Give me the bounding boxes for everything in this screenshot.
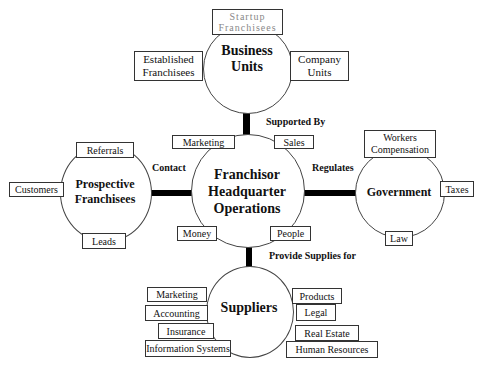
prospective-title-line1: Prospective <box>62 177 148 192</box>
business-units-title: Business Units <box>205 43 289 75</box>
box-supplier-human-resources: Human Resources <box>286 341 378 358</box>
box-leads: Leads <box>82 233 126 249</box>
label-provide-supplies: Provide Supplies for <box>269 250 356 261</box>
hq-title-line2: Headquarter <box>195 183 299 200</box>
box-label: Units <box>308 66 332 79</box>
box-law: Law <box>385 231 413 246</box>
suppliers-title: Suppliers <box>208 300 290 316</box>
box-hq-people: People <box>270 226 311 241</box>
government-title: Government <box>357 186 441 200</box>
box-customers: Customers <box>9 182 64 197</box>
box-supplier-real-estate: Real Estate <box>295 325 359 341</box>
box-workers-compensation: Workers Compensation <box>364 130 436 158</box>
box-referrals: Referrals <box>76 142 134 158</box>
label-supported-by: Supported By <box>266 116 325 127</box>
business-units-title-line1: Business <box>205 43 289 59</box>
box-company-units: Company Units <box>290 51 349 81</box>
box-label: Franchisees <box>143 66 195 79</box>
box-label: Startup <box>230 11 266 22</box>
hq-title-line3: Operations <box>195 200 299 217</box>
box-supplier-products: Products <box>292 288 342 304</box>
box-label: Compensation <box>371 144 429 156</box>
box-label: Workers <box>383 132 417 144</box>
label-contact: Contact <box>152 162 186 173</box>
business-units-title-line2: Units <box>205 59 289 75</box>
prospective-title-line2: Franchisees <box>62 192 148 207</box>
box-supplier-insurance: Insurance <box>158 323 214 339</box>
franchisor-hq-title: Franchisor Headquarter Operations <box>195 166 299 217</box>
label-regulates: Regulates <box>312 162 354 173</box>
box-label: Company <box>298 53 341 66</box>
connector-prospective <box>150 190 192 196</box>
box-hq-marketing: Marketing <box>172 135 235 149</box>
box-supplier-legal: Legal <box>296 304 336 321</box>
box-label: Franchisees <box>218 22 276 33</box>
prospective-franchisees-title: Prospective Franchisees <box>62 177 148 207</box>
box-startup-franchisees: Startup Franchisees <box>212 9 283 35</box>
box-hq-sales: Sales <box>274 135 314 149</box>
hq-title-line1: Franchisor <box>195 166 299 183</box>
box-supplier-accounting: Accounting <box>145 305 208 321</box>
box-hq-money: Money <box>177 226 217 241</box>
box-established-franchisees: Established Franchisees <box>134 51 203 81</box>
box-taxes: Taxes <box>440 181 474 197</box>
box-supplier-marketing: Marketing <box>147 287 207 302</box>
box-label: Established <box>143 53 194 66</box>
connector-suppliers <box>246 245 252 267</box>
box-supplier-information-systems: Information Systems <box>145 340 231 357</box>
connector-government <box>302 190 356 196</box>
